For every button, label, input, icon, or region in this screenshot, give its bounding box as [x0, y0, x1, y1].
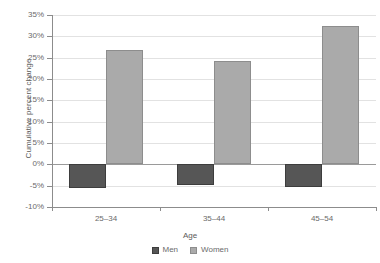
y-axis-tick	[47, 122, 52, 123]
bar-women-2	[322, 26, 359, 165]
y-axis-tick-label: 35%	[4, 11, 44, 19]
y-axis-tick-label: -10%	[4, 203, 44, 211]
x-axis-tick	[268, 207, 269, 211]
bar-men-1	[177, 164, 214, 184]
legend-item-women: Women	[190, 246, 228, 254]
chart-legend: MenWomen	[0, 246, 380, 254]
x-axis-tick	[376, 207, 377, 211]
bar-women-1	[214, 61, 251, 165]
y-axis-tick	[47, 207, 52, 208]
x-axis-tick	[52, 207, 53, 211]
y-axis-tick-label: 15%	[4, 96, 44, 104]
y-axis-tick	[47, 79, 52, 80]
x-axis-title: Age	[0, 231, 380, 240]
gridline	[52, 15, 376, 16]
y-axis-tick-label: 5%	[4, 139, 44, 147]
y-axis-tick	[47, 100, 52, 101]
y-axis-tick	[47, 143, 52, 144]
x-axis-category-label: 35–44	[174, 214, 254, 223]
bar-women-0	[106, 50, 143, 164]
bar-men-2	[285, 164, 322, 187]
bar-chart: Cumulative percent change 35%30%25%20%15…	[0, 0, 380, 263]
legend-label: Men	[163, 246, 179, 254]
y-axis-tick	[47, 15, 52, 16]
y-axis-tick	[47, 164, 52, 165]
legend-item-men: Men	[152, 246, 179, 254]
y-axis-tick-labels: 35%30%25%20%15%10%5%0%-5%-10%	[0, 0, 44, 263]
y-axis-tick-label: 20%	[4, 75, 44, 83]
y-axis-tick-label: 0%	[4, 160, 44, 168]
bar-men-0	[69, 164, 106, 187]
y-axis-tick	[47, 36, 52, 37]
plot-area	[52, 15, 376, 207]
y-axis-line	[52, 15, 53, 207]
y-axis-tick-label: 25%	[4, 54, 44, 62]
legend-label: Women	[201, 246, 228, 254]
y-axis-tick-label: 30%	[4, 32, 44, 40]
legend-swatch-icon	[152, 247, 159, 254]
y-axis-tick-label: 10%	[4, 118, 44, 126]
x-axis-category-label: 25–34	[66, 214, 146, 223]
x-axis-tick	[160, 207, 161, 211]
y-axis-tick	[47, 186, 52, 187]
x-axis-line	[52, 207, 376, 208]
x-axis-category-label: 45–54	[282, 214, 362, 223]
legend-swatch-icon	[190, 247, 197, 254]
y-axis-tick-label: -5%	[4, 182, 44, 190]
y-axis-tick	[47, 58, 52, 59]
